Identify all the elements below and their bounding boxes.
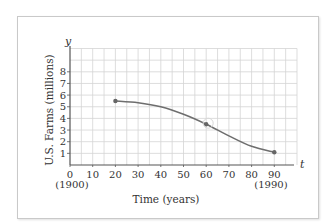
data-point	[272, 150, 276, 154]
axes	[70, 46, 294, 165]
t-axis-symbol: t	[300, 158, 305, 171]
y-tick-label: 3	[60, 125, 66, 136]
data-point	[204, 122, 208, 126]
data-point	[113, 99, 117, 103]
x-tick-label: 40	[154, 169, 167, 180]
x-tick-label: 30	[132, 169, 145, 180]
x-tick-label: 50	[177, 169, 190, 180]
chart-svg: 010203040506070809012345678 y t Time (ye…	[0, 0, 333, 224]
y-tick-label: 5	[60, 101, 66, 112]
x-tick-label: 20	[109, 169, 122, 180]
y-axis-title: U.S. Farms (millions)	[43, 54, 55, 165]
y-tick-label: 2	[60, 136, 66, 147]
y-axis-symbol: y	[64, 35, 72, 48]
y-tick-label: 1	[60, 148, 66, 159]
x-sublabel-1990: (1990)	[254, 179, 287, 190]
y-tick-label: 7	[60, 78, 66, 89]
y-tick-label: 4	[60, 113, 66, 124]
x-tick-label: 70	[223, 169, 236, 180]
y-tick-label: 6	[60, 90, 66, 101]
x-tick-label: 60	[200, 169, 213, 180]
grid	[70, 49, 297, 166]
y-tick-label: 8	[60, 66, 66, 77]
x-axis-title: Time (years)	[133, 193, 200, 205]
x-sublabel-1900: (1900)	[55, 179, 88, 190]
